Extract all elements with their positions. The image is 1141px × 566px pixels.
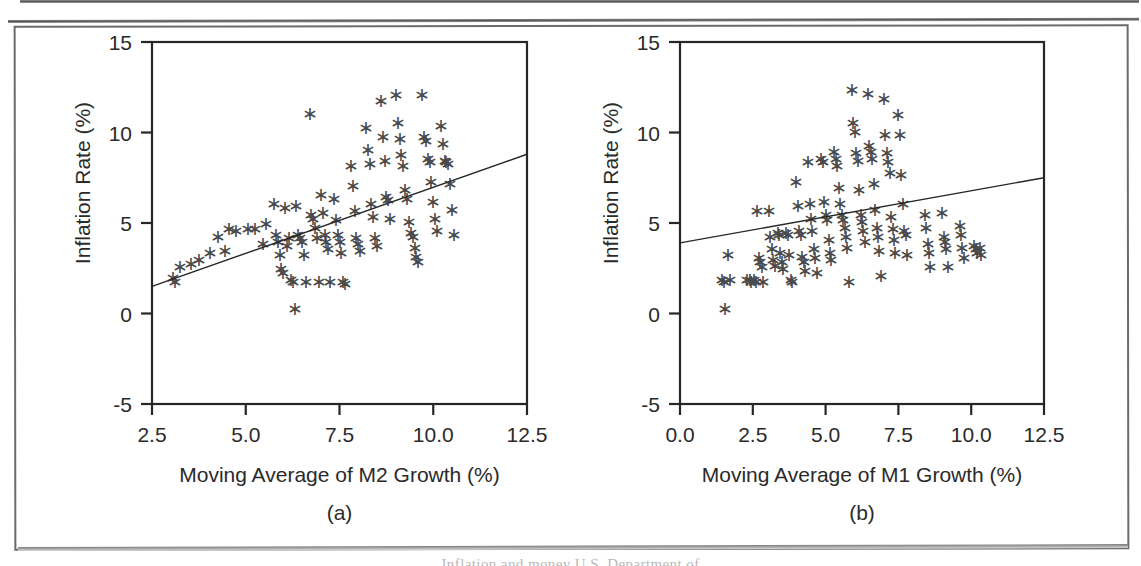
data-point: ∗ [414, 84, 430, 105]
data-point: ∗ [839, 237, 855, 258]
x-tick-label: 12.5 [507, 423, 548, 446]
data-point: ∗ [343, 155, 359, 176]
page-border-line-upper [20, 0, 1139, 3]
data-point: ∗ [823, 249, 839, 270]
x-tick-label: 7.5 [884, 423, 913, 446]
x-tick-label: 2.5 [738, 423, 767, 446]
x-tick-label: 10.0 [951, 423, 992, 446]
data-point: ∗ [829, 155, 845, 176]
data-point: ∗ [898, 224, 914, 245]
x-tick-label: 10.0 [413, 423, 454, 446]
data-point: ∗ [890, 104, 906, 125]
scanned-page-frame: -50510152.55.07.510.012.5∗∗∗∗∗∗∗∗∗∗∗∗∗∗∗… [0, 0, 1141, 566]
data-point: ∗ [860, 83, 876, 104]
x-tick-label: 2.5 [137, 423, 166, 446]
data-point: ∗ [375, 126, 391, 147]
data-point: ∗ [934, 202, 950, 223]
data-point: ∗ [892, 124, 908, 145]
data-point: ∗ [841, 271, 857, 292]
data-point: ∗ [440, 153, 456, 174]
y-tick-label: 10 [637, 122, 660, 145]
data-point: ∗ [358, 117, 374, 138]
data-point: ∗ [788, 171, 804, 192]
x-tick-label: 5.0 [811, 423, 840, 446]
data-point: ∗ [940, 256, 956, 277]
data-point: ∗ [377, 150, 393, 171]
page-border-line-lower [8, 18, 1139, 23]
data-point: ∗ [288, 195, 304, 216]
y-tick-label: 15 [637, 31, 660, 54]
data-point: ∗ [369, 235, 385, 256]
panel-letter: (a) [327, 501, 353, 524]
data-point: ∗ [326, 188, 342, 209]
data-point: ∗ [382, 208, 398, 229]
data-point: ∗ [717, 298, 733, 319]
chart-panel-b: -50510150.02.55.07.510.012.5∗∗∗∗∗∗∗∗∗∗∗∗… [572, 30, 1132, 530]
data-point: ∗ [302, 103, 318, 124]
data-point: ∗ [337, 273, 353, 294]
scatter-plot-a: -50510152.55.07.510.012.5∗∗∗∗∗∗∗∗∗∗∗∗∗∗∗… [20, 30, 572, 530]
x-tick-label: 7.5 [325, 423, 354, 446]
data-point: ∗ [722, 269, 738, 290]
y-tick-label: 5 [120, 212, 132, 235]
y-tick-label: 0 [648, 303, 660, 326]
data-point: ∗ [347, 200, 363, 221]
y-tick-label: 15 [109, 31, 132, 54]
data-point: ∗ [446, 224, 462, 245]
data-point: ∗ [388, 84, 404, 105]
data-point: ∗ [761, 200, 777, 221]
y-tick-label: -5 [641, 393, 660, 416]
data-point: ∗ [429, 220, 445, 241]
panel-letter: (b) [849, 501, 875, 524]
x-tick-label: 5.0 [231, 423, 260, 446]
cut-off-caption: Inflation and money U.S. Department of [0, 556, 1141, 566]
y-axis-title: Inflation Rate (%) [599, 102, 622, 264]
scatter-plot-b: -50510150.02.55.07.510.012.5∗∗∗∗∗∗∗∗∗∗∗∗… [572, 30, 1132, 530]
data-point: ∗ [893, 164, 909, 185]
y-tick-label: 0 [120, 303, 132, 326]
x-tick-label: 0.0 [665, 423, 694, 446]
x-axis-title: Moving Average of M2 Growth (%) [179, 463, 500, 486]
data-point: ∗ [352, 240, 368, 261]
data-point: ∗ [362, 153, 378, 174]
data-point: ∗ [720, 244, 736, 265]
data-point: ∗ [444, 199, 460, 220]
data-point: ∗ [922, 256, 938, 277]
data-point: ∗ [373, 90, 389, 111]
x-axis-title: Moving Average of M1 Growth (%) [702, 463, 1023, 486]
chart-panel-a: -50510152.55.07.510.012.5∗∗∗∗∗∗∗∗∗∗∗∗∗∗∗… [20, 30, 572, 530]
data-point: ∗ [873, 265, 889, 286]
data-point: ∗ [333, 242, 349, 263]
data-point: ∗ [287, 298, 303, 319]
regression-line [152, 154, 527, 286]
data-point: ∗ [844, 79, 860, 100]
data-point: ∗ [410, 251, 426, 272]
data-point: ∗ [899, 244, 915, 265]
data-point: ∗ [422, 151, 438, 172]
y-tick-label: 10 [109, 122, 132, 145]
y-tick-label: -5 [113, 393, 132, 416]
data-point: ∗ [345, 175, 361, 196]
y-tick-label: 5 [648, 212, 660, 235]
data-point: ∗ [395, 155, 411, 176]
x-tick-label: 12.5 [1024, 423, 1065, 446]
data-point: ∗ [866, 173, 882, 194]
data-point: ∗ [973, 244, 989, 265]
y-axis-title: Inflation Rate (%) [71, 102, 94, 264]
